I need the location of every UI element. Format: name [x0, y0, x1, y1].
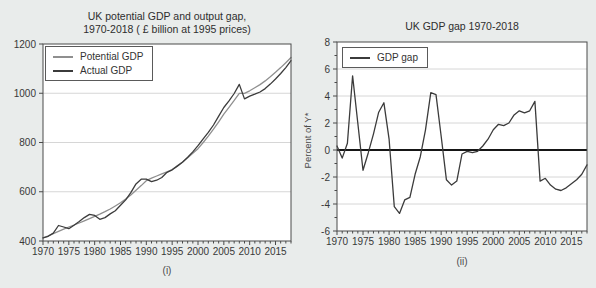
gdp-chart: UK potential GDP and output gap, 1970-20…	[8, 6, 308, 276]
gap-chart-title: UK GDP gap 1970-2018	[337, 20, 587, 33]
x-tick-label: 2000	[187, 246, 210, 257]
x-tick-label: 2015	[560, 236, 583, 247]
y-tick-label: 1000	[14, 88, 37, 99]
x-tick-label: 1995	[161, 246, 184, 257]
gap-chart: UK GDP gap 1970-2018 Percent of Y* -6-4-…	[300, 6, 592, 267]
x-tick-label: 1985	[404, 236, 427, 247]
gap-chart-ylabel-text: Percent of Y*	[303, 112, 314, 168]
x-tick-label: 1970	[32, 246, 55, 257]
y-tick-label: 4	[324, 91, 330, 102]
legend-entry-potential-gdp: Potential GDP	[53, 51, 143, 62]
y-tick-label: -4	[321, 199, 330, 210]
gdp-chart-caption: (i)	[43, 265, 291, 276]
y-tick-label: 2	[324, 118, 330, 129]
legend-line-swatch	[350, 57, 370, 59]
legend-line-swatch	[53, 56, 73, 58]
y-tick-label: 8	[324, 37, 330, 48]
y-tick-label: 800	[19, 137, 36, 148]
gdp-chart-title: UK potential GDP and output gap, 1970-20…	[43, 10, 291, 36]
x-tick-label: 2005	[213, 246, 236, 257]
x-tick-label: 2015	[264, 246, 287, 257]
gdp-chart-legend: Potential GDPActual GDP	[45, 46, 153, 81]
x-tick-label: 1990	[135, 246, 158, 257]
x-tick-label: 1980	[84, 246, 107, 257]
legend-entry-actual-gdp: Actual GDP	[53, 65, 143, 76]
gap-chart-title-line1: UK GDP gap 1970-2018	[337, 20, 587, 33]
gap-chart-caption: (ii)	[337, 256, 587, 267]
x-tick-label: 2010	[239, 246, 262, 257]
plot-area	[337, 42, 587, 231]
gap-chart-legend: GDP gap	[342, 47, 428, 68]
legend-label: Actual GDP	[80, 65, 132, 76]
x-tick-label: 1990	[430, 236, 453, 247]
legend-line-swatch	[53, 70, 73, 72]
x-tick-label: 2005	[508, 236, 531, 247]
legend-entry-gdp-gap: GDP gap	[350, 52, 418, 63]
gdp-chart-title-line2: 1970-2018 ( £ billion at 1995 prices)	[43, 23, 291, 36]
x-tick-label: 1975	[58, 246, 81, 257]
gdp-chart-title-line1: UK potential GDP and output gap,	[43, 10, 291, 23]
y-tick-label: 600	[19, 186, 36, 197]
legend-label: Potential GDP	[80, 51, 143, 62]
x-tick-label: 1975	[352, 236, 375, 247]
x-tick-label: 1995	[456, 236, 479, 247]
y-tick-label: -2	[321, 172, 330, 183]
x-tick-label: 2000	[482, 236, 505, 247]
y-tick-label: 6	[324, 64, 330, 75]
x-tick-label: 2010	[534, 236, 557, 247]
y-tick-label: 0	[324, 145, 330, 156]
y-tick-label: 400	[19, 236, 36, 247]
y-tick-label: 1200	[14, 39, 37, 50]
gap-chart-ylabel: Percent of Y*	[301, 70, 315, 210]
legend-label: GDP gap	[377, 52, 418, 63]
y-tick-label: -6	[321, 226, 330, 237]
x-tick-label: 1985	[109, 246, 132, 257]
x-tick-label: 1970	[326, 236, 349, 247]
x-tick-label: 1980	[378, 236, 401, 247]
